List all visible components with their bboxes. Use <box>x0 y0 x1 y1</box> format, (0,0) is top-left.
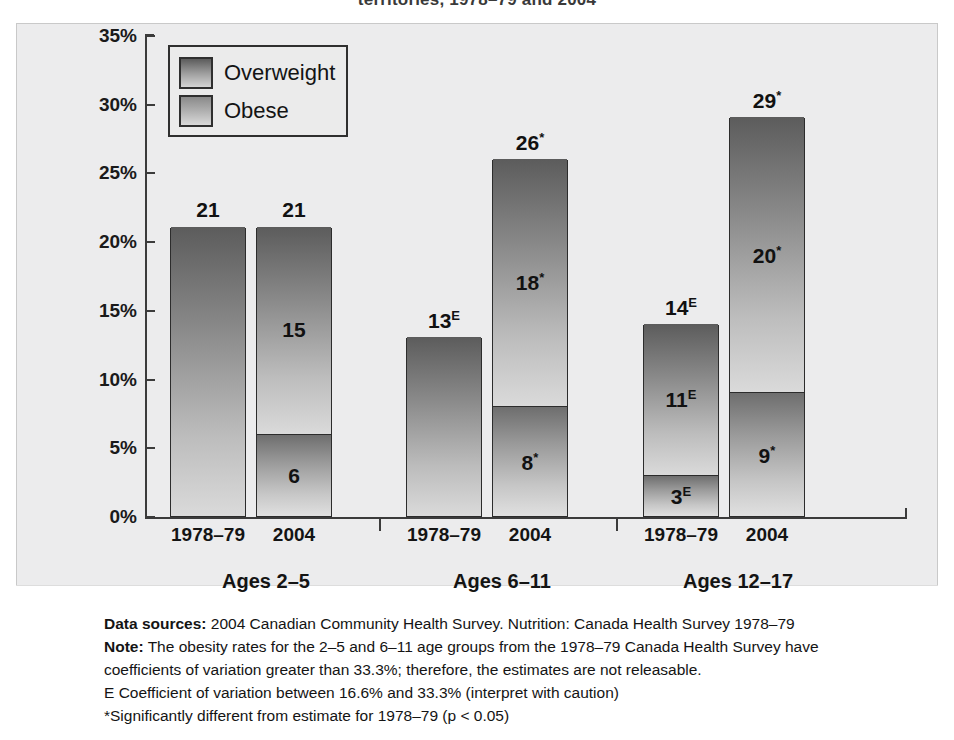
bar-label-overweight: 15 <box>257 319 331 340</box>
group-label: Ages 6–11 <box>402 570 602 593</box>
y-axis-tick-mark <box>145 516 155 518</box>
x-axis-line <box>145 517 907 519</box>
group-separator-tick <box>379 519 381 531</box>
bar-Ages25-197879[interactable] <box>170 228 246 517</box>
bar-segment-overweight <box>407 337 481 516</box>
footnote-note-text: The obesity rates for the 2–5 and 6–11 a… <box>144 638 819 655</box>
bar-segment-overweight: 11E <box>644 324 718 475</box>
bar-label-overweight: 20* <box>730 244 804 266</box>
x-axis-label: 2004 <box>707 524 827 546</box>
bar-total-label: 29* <box>729 89 805 111</box>
y-axis-tick-label: 25% <box>81 163 137 182</box>
y-axis-tick-mark <box>145 447 155 449</box>
x-axis-label: 2004 <box>234 524 354 546</box>
bar-Ages1217-2004[interactable]: 9*20* <box>729 118 805 517</box>
bar-segment-overweight: 18* <box>493 159 567 406</box>
y-axis-tick-mark <box>145 310 155 312</box>
x-axis-label: 2004 <box>470 524 590 546</box>
footnote-data-sources-text: 2004 Canadian Community Health Survey. N… <box>207 615 795 632</box>
y-axis-tick-label: 35% <box>81 26 137 45</box>
legend-swatch-obese-icon <box>179 95 213 127</box>
y-axis-tick-label: 10% <box>81 370 137 389</box>
y-axis-tick-mark <box>145 172 155 174</box>
y-axis-tick-mark <box>145 379 155 381</box>
bar-total-label: 21 <box>256 199 332 220</box>
y-axis-tick-label: 0% <box>81 507 137 526</box>
legend-label-obese: Obese <box>224 100 289 122</box>
group-label: Ages 12–17 <box>638 570 838 593</box>
bar-segment-overweight: 15 <box>257 227 331 433</box>
bar-total-label: 14E <box>643 296 719 318</box>
bar-Ages25-2004[interactable]: 615 <box>256 228 332 517</box>
x-axis-right-cap <box>905 508 907 519</box>
bar-segment-overweight <box>171 227 245 516</box>
chart-legend: Overweight Obese <box>168 45 348 137</box>
bar-total-label: 13E <box>406 309 482 331</box>
y-axis-tick-mark <box>145 35 155 37</box>
bar-segment-obese: 6 <box>257 434 331 516</box>
group-label: Ages 2–5 <box>166 570 366 593</box>
footnote-e-definition: E Coefficient of variation between 16.6%… <box>104 682 944 705</box>
y-axis-tick-label: 20% <box>81 232 137 251</box>
y-axis-labels: 35%30%25%20%15%10%5%0% <box>73 0 137 563</box>
footnote-note-continued: coefficients of variation greater than 3… <box>104 659 944 682</box>
footnote-data-sources: Data sources: 2004 Canadian Community He… <box>104 613 944 636</box>
bar-label-overweight: 18* <box>493 271 567 293</box>
legend-item-obese[interactable]: Obese <box>179 92 346 130</box>
bar-Ages611-2004[interactable]: 8*18* <box>492 160 568 517</box>
bar-label-obese: 3E <box>644 485 718 507</box>
bar-label-obese: 9* <box>730 444 804 466</box>
group-separator-tick <box>616 519 618 531</box>
y-axis-tick-label: 5% <box>81 438 137 457</box>
legend-swatch-overweight-icon <box>179 57 213 89</box>
footnote-asterisk-definition: *Significantly different from estimate f… <box>104 705 944 728</box>
y-axis-tick-mark <box>145 104 155 106</box>
bar-Ages611-197879[interactable] <box>406 338 482 517</box>
bar-segment-overweight: 20* <box>730 117 804 392</box>
bar-label-obese: 8* <box>493 451 567 473</box>
y-axis-tick-label: 15% <box>81 301 137 320</box>
bar-Ages1217-197879[interactable]: 3E11E <box>643 325 719 517</box>
bar-label-obese: 6 <box>257 465 331 486</box>
bar-segment-obese: 9* <box>730 392 804 516</box>
y-axis-tick-mark <box>145 241 155 243</box>
bar-segment-obese: 3E <box>644 475 718 516</box>
legend-label-overweight: Overweight <box>224 62 335 84</box>
bar-total-label: 26* <box>492 131 568 153</box>
footnote-data-sources-label: Data sources: <box>104 615 207 632</box>
chart-title: territories, 1978–79 and 2004 <box>0 0 954 10</box>
footnote-note-label: Note: <box>104 638 144 655</box>
chart-footnotes: Data sources: 2004 Canadian Community He… <box>104 613 944 728</box>
bar-segment-obese: 8* <box>493 406 567 516</box>
bar-label-overweight: 11E <box>644 388 718 410</box>
legend-item-overweight[interactable]: Overweight <box>179 54 346 92</box>
y-axis-tick-label: 30% <box>81 95 137 114</box>
y-axis-line <box>145 34 147 519</box>
footnote-note: Note: The obesity rates for the 2–5 and … <box>104 636 944 659</box>
bar-total-label: 21 <box>170 199 246 220</box>
